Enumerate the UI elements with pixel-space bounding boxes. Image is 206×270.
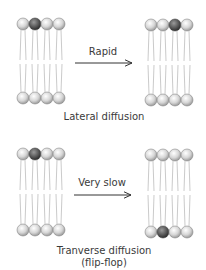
- lipid-head: [53, 18, 65, 30]
- lipid-head-marked: [29, 18, 41, 30]
- lipid-head: [181, 19, 193, 31]
- lipid-head: [145, 19, 157, 31]
- lipid-head: [41, 92, 53, 104]
- lipid-head-marked: [157, 226, 169, 238]
- arrow-label-very-slow: Very slow: [78, 177, 126, 189]
- lipid-head: [157, 149, 169, 161]
- lipid-head: [169, 94, 181, 106]
- caption-transverse-diffusion: Tranverse diffusion: [57, 245, 152, 257]
- lipid-head: [169, 149, 181, 161]
- lipid-head: [145, 149, 157, 161]
- bilayer-transverse-before: [17, 148, 65, 236]
- lipid-head-marked: [29, 148, 41, 160]
- lipid-head: [145, 94, 157, 106]
- bilayer-transverse-after: [145, 149, 193, 238]
- lipid-head: [145, 226, 157, 238]
- lipid-head-marked: [169, 19, 181, 31]
- lipid-head: [29, 92, 41, 104]
- lipid-head: [53, 148, 65, 160]
- membrane-diffusion-diagram: [0, 0, 206, 270]
- lipid-head: [41, 224, 53, 236]
- caption-flip-flop: (flip-flop): [81, 257, 127, 269]
- lipid-head: [41, 148, 53, 160]
- lipid-head: [17, 92, 29, 104]
- lipid-head: [157, 19, 169, 31]
- lipid-head: [29, 224, 41, 236]
- lipid-head: [53, 224, 65, 236]
- lipid-head: [17, 148, 29, 160]
- lipid-head: [41, 18, 53, 30]
- lipid-head: [169, 226, 181, 238]
- lipid-head: [53, 92, 65, 104]
- lipid-head: [181, 94, 193, 106]
- lipid-head: [157, 94, 169, 106]
- lipid-head: [17, 18, 29, 30]
- lipid-head: [181, 226, 193, 238]
- bilayer-lateral-after: [145, 19, 193, 106]
- arrow-label-rapid: Rapid: [89, 46, 117, 58]
- lipid-head: [181, 149, 193, 161]
- lipid-head: [17, 224, 29, 236]
- bilayer-lateral-before: [17, 18, 65, 104]
- caption-lateral-diffusion: Lateral diffusion: [64, 111, 145, 123]
